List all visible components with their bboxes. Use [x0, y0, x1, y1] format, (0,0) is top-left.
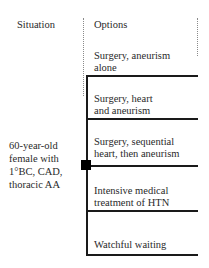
branch-line-4 — [86, 210, 198, 212]
branch-line-2 — [86, 118, 198, 120]
option-label: heart, then aneurism — [94, 148, 179, 161]
column-divider-left — [83, 18, 84, 96]
option-label: alone — [94, 62, 117, 75]
option-label: Surgery, sequential — [94, 136, 174, 149]
option-label: Watchful waiting — [94, 239, 166, 252]
option-label: treatment of HTN — [94, 197, 169, 210]
situation-line: 1°BC, CAD, — [9, 166, 63, 179]
option-label: Surgery, heart — [94, 93, 153, 106]
option-label: Surgery, aneurism — [94, 50, 170, 63]
branch-line-3 — [86, 165, 198, 167]
options-header: Options — [94, 19, 127, 32]
situation-line: 60-year-old — [9, 140, 58, 153]
decision-node-square — [81, 160, 91, 170]
branch-line-1 — [86, 75, 198, 77]
situation-line: thoracic AA — [9, 179, 60, 192]
situation-header: Situation — [17, 19, 55, 32]
situation-line: female with — [9, 153, 59, 166]
column-divider-right — [197, 18, 198, 56]
branch-line-5 — [86, 254, 198, 256]
option-label: and aneurism — [94, 105, 150, 118]
option-label: Intensive medical — [94, 185, 168, 198]
